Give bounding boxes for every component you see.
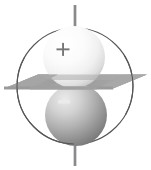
negative-sphere [45,84,107,146]
plane-waist-band [30,87,97,90]
negative-charge-sign-icon [58,100,70,103]
dipole-figure: + − [0,0,151,170]
plane-far-band [38,75,126,81]
negative-sphere-group [45,84,107,146]
dipole-diagram-canvas: + − [0,0,151,170]
